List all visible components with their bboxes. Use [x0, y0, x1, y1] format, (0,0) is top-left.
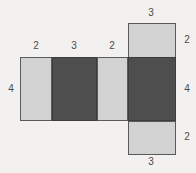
dimension-label-face3-width: 2 — [104, 41, 120, 51]
dimension-label-bottom-flap-height: 2 — [179, 132, 195, 142]
dimension-label-bottom-flap-width: 3 — [143, 157, 159, 167]
net-face-row-2 — [52, 57, 97, 121]
prism-net-figure: 3 2 3 2 4 2 4 2 3 — [0, 0, 196, 173]
net-face-row-1 — [20, 57, 52, 121]
dimension-label-top-flap-height: 2 — [179, 35, 195, 45]
net-face-row-3 — [97, 57, 128, 121]
dimension-label-right-height: 4 — [179, 84, 195, 94]
dimension-label-face1-width: 2 — [28, 41, 44, 51]
dimension-label-top-flap-width: 3 — [143, 8, 159, 18]
dimension-label-left-height: 4 — [3, 84, 19, 94]
dimension-label-face2-width: 3 — [66, 41, 82, 51]
net-face-row-4 — [128, 57, 176, 121]
net-face-top-flap — [128, 23, 176, 58]
net-face-bottom-flap — [128, 121, 176, 155]
